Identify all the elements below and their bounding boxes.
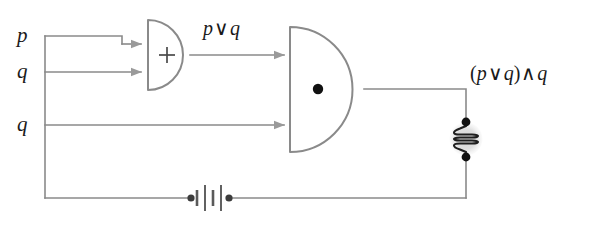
- and-inner-right-operand: q: [504, 62, 514, 84]
- or-output-label: p∨q: [203, 18, 240, 38]
- input-label-q1: q: [17, 61, 28, 82]
- input-label-p: p: [17, 25, 28, 46]
- lamp-terminal-bottom: [462, 153, 471, 162]
- battery-plates: [197, 185, 221, 211]
- wire-network: [45, 36, 466, 198]
- wire-p-to-or-corner: [45, 36, 122, 44]
- and-gate[interactable]: [290, 27, 353, 152]
- or-output-left-operand: p: [203, 17, 213, 39]
- circuit-diagram-canvas: p q q p∨q (p∨q)∧q: [0, 0, 607, 230]
- circuit-diagram-svg: [0, 0, 607, 230]
- lamp[interactable]: [450, 118, 483, 162]
- and-operator-icon: ∧: [520, 62, 537, 84]
- or-operator-icon-inner: ∨: [487, 62, 504, 84]
- and-output-label: (p∨q)∧q: [470, 63, 547, 83]
- dot-symbol: [313, 84, 323, 94]
- battery-terminal-right: [225, 194, 232, 201]
- open-paren: (: [470, 62, 477, 84]
- or-gate[interactable]: [148, 20, 183, 90]
- battery[interactable]: [187, 185, 232, 211]
- and-outer-right-operand: q: [537, 62, 547, 84]
- wire-and-out-to-lamp: [364, 89, 466, 122]
- or-operator-icon: ∨: [213, 17, 230, 39]
- battery-terminal-left: [187, 194, 194, 201]
- and-inner-left-operand: p: [477, 62, 487, 84]
- or-output-right-operand: q: [230, 17, 240, 39]
- lamp-terminal-top: [462, 118, 471, 127]
- input-label-q2: q: [17, 114, 28, 135]
